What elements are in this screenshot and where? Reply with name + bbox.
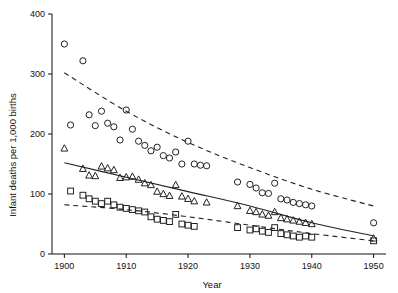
x-tick-label: 1900 xyxy=(54,261,74,271)
scatter-plot: Infant deaths per 1,000 births Year 0100… xyxy=(0,0,398,293)
y-tick-label: 300 xyxy=(30,69,45,79)
y-tick-label: 400 xyxy=(30,9,45,19)
y-tick-label: 200 xyxy=(30,129,45,139)
x-tick-label: 1940 xyxy=(302,261,322,271)
y-tick-label: 100 xyxy=(30,189,45,199)
y-axis-title: Infant deaths per 1,000 births xyxy=(7,93,18,217)
x-axis-title: Year xyxy=(202,279,221,290)
y-tick-label: 0 xyxy=(40,249,45,259)
x-tick-label: 1950 xyxy=(364,261,384,271)
x-tick-label: 1910 xyxy=(116,261,136,271)
x-tick-label: 1930 xyxy=(240,261,260,271)
chart-container: Infant deaths per 1,000 births Year 0100… xyxy=(0,0,398,293)
plot-background xyxy=(0,0,398,293)
x-tick-label: 1920 xyxy=(178,261,198,271)
